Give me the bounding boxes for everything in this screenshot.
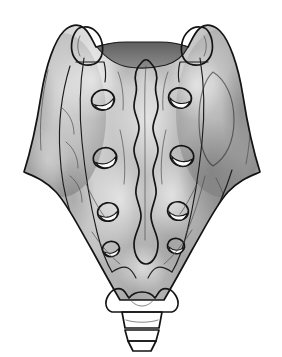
- figure-root: Sacrum and coccyx, posterior (dorsal) vi…: [0, 0, 282, 357]
- sacrum-illustration: [0, 0, 282, 357]
